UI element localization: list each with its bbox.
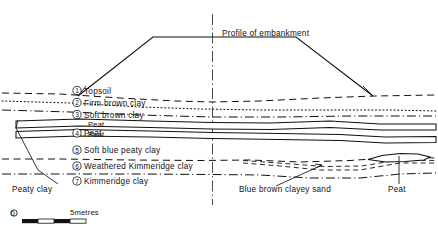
stratum-label-6: Weathered Kimmeridge clay: [84, 162, 194, 171]
stratum-number-7: 7: [75, 178, 79, 185]
scale-bar: 0 5metres: [11, 208, 99, 223]
clayey-sand-leader: [276, 165, 322, 186]
peat-band-label-upper: Peat: [88, 120, 105, 129]
callout-blue-brown-clayey-sand: Blue brown clayey sand: [239, 185, 331, 194]
weathered-kimmeridge-clay-base-line: [2, 173, 436, 178]
firm-brown-clay-base-line: [2, 101, 436, 111]
embankment-profile-line: [78, 37, 373, 96]
geological-cross-section: Profile of embankment 1 Topsoil 2 Firm b…: [0, 0, 438, 230]
peat-band-label-lower: Peat: [88, 130, 105, 139]
embankment-profile-label: Profile of embankment: [222, 29, 310, 38]
scale-segment-2: [38, 219, 54, 223]
scale-bar-end-label: 5metres: [70, 208, 99, 217]
peat-band-upper: [16, 119, 436, 130]
stratum-label-7: Kimmeridge clay: [84, 177, 149, 186]
stratum-number-3: 3: [75, 111, 79, 118]
scale-segment-4: [70, 219, 86, 223]
stratum-number-1: 1: [75, 87, 79, 94]
stratum-label-1: Topsoil: [84, 87, 111, 96]
callout-peaty-clay: Peaty clay: [12, 185, 53, 194]
stratum-label-5: Soft blue peaty clay: [84, 146, 161, 155]
figure-canvas: Profile of embankment 1 Topsoil 2 Firm b…: [0, 0, 438, 230]
scale-segment-1: [22, 219, 38, 223]
right-toe-leader: [363, 86, 373, 96]
stratum-number-2: 2: [75, 99, 79, 106]
stratum-number-5: 5: [75, 147, 79, 154]
callout-peat-right: Peat: [388, 185, 406, 194]
scale-segment-3: [54, 219, 70, 223]
soft-brown-clay-base-line: [2, 110, 436, 117]
stratum-label-2: Firm brown clay: [84, 99, 146, 108]
stratum-number-4: 4: [75, 130, 79, 137]
stratum-number-6: 6: [75, 163, 79, 170]
clayey-sand-leader-arrow-b: [315, 164, 322, 165]
scale-bar-start-label: 0: [11, 209, 15, 218]
stratum-label-3: Soft brown clay: [84, 111, 144, 120]
